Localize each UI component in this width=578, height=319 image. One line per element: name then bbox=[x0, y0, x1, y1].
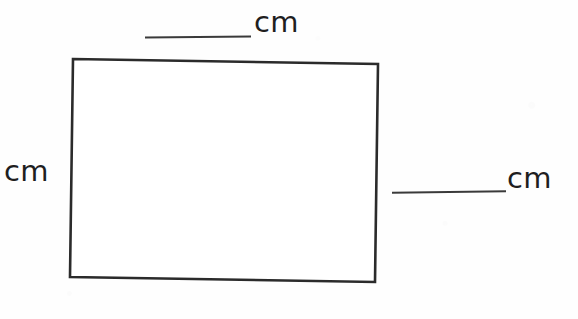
unit-label-left: cm bbox=[4, 157, 49, 186]
worksheet-figure: cm cm cm bbox=[0, 0, 578, 319]
unit-label-top: cm bbox=[254, 8, 299, 37]
rectangle-shape bbox=[0, 0, 578, 319]
rectangle-outline bbox=[70, 59, 378, 282]
unit-label-right: cm bbox=[507, 164, 552, 193]
